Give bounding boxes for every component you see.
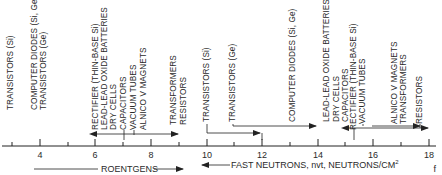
label-resistors: RESISTORS — [179, 76, 188, 125]
svg-text:10: 10 — [202, 150, 212, 160]
label-alnico-magnets: ALNICO V MAGNETS — [139, 47, 148, 130]
label-vacuum-tubes: VACUUM TUBES — [129, 64, 138, 130]
label-n-dry-cells: DRY CELLS — [332, 75, 341, 122]
label-n-computer-diodes: COMPUTER DIODES (Si, Ge) — [288, 8, 297, 122]
label-n-vacuum-tubes: VACUUM TUBES — [358, 58, 367, 124]
neutron-connectors — [207, 124, 428, 140]
label-n-lead-batteries: LEAD-LEAD OXIDE BATTERIES — [322, 0, 331, 122]
svg-text:ROENTGENS: ROENTGENS — [101, 164, 158, 174]
label-transistors-si: TRANSISTORS (Si) — [6, 35, 15, 110]
label-lead-batteries: LEAD-LEAD OXIDE BATTERIES — [100, 7, 109, 130]
label-n-transistors-ge: TRANSISTORS (Ge) — [228, 43, 237, 122]
label-transistors-ge: TRANSISTORS (Ge) — [39, 31, 48, 110]
svg-text:4: 4 — [37, 150, 42, 160]
label-n-rectifier: RECTIFIER (THIN-BASE Si) — [349, 23, 358, 130]
label-n-resistors: RESISTORS — [415, 75, 424, 124]
svg-text:12: 12 — [257, 150, 267, 160]
axis-ticks — [12, 139, 429, 146]
footer-fragment: f — [433, 164, 436, 174]
neutrons-axis-label: FAST NEUTRONS, nvt, NEUTRONS/CM2 — [231, 159, 399, 170]
svg-text:18: 18 — [424, 150, 434, 160]
label-dry-cells: DRY CELLS — [109, 83, 118, 130]
label-n-transistors-si: TRANSISTORS (Si) — [202, 47, 211, 122]
svg-text:6: 6 — [92, 150, 97, 160]
label-capacitors: CAPACITORS — [119, 76, 128, 130]
axis-tick-labels: 4 6 8 10 12 14 16 18 — [37, 150, 434, 160]
svg-text:14: 14 — [313, 150, 323, 160]
svg-text:16: 16 — [368, 150, 378, 160]
label-n-transformers: TRANSFORMERS — [399, 54, 408, 124]
roentgens-component-labels: TRANSISTORS (Si) COMPUTER DIODES (Si, Ge… — [6, 0, 188, 130]
label-rectifier: RECTIFIER (THIN-BASE Si) — [91, 23, 100, 130]
roentgens-connectors — [96, 130, 178, 140]
roentgens-range: ROENTGENS — [34, 164, 183, 174]
label-n-alnico-magnets: ALNICO V MAGNETS — [390, 41, 399, 124]
neutrons-range: FAST NEUTRONS, nvt, NEUTRONS/CM2 — [202, 159, 399, 170]
label-transformers: TRANSFORMERS — [169, 55, 178, 125]
svg-text:8: 8 — [148, 150, 153, 160]
neutron-component-labels: TRANSISTORS (Si) TRANSISTORS (Ge) COMPUT… — [202, 0, 424, 130]
radiation-damage-threshold-diagram: 4 6 8 10 12 14 16 18 ROENTGENS FAST NEUT… — [0, 0, 442, 175]
label-computer-diodes: COMPUTER DIODES (Si, Ge) — [30, 0, 39, 110]
